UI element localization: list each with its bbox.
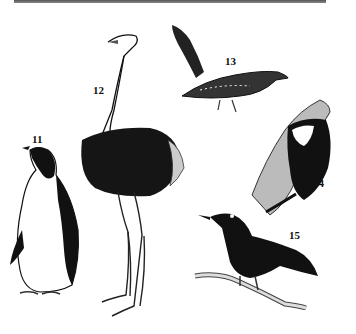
label-woodpecker: 14 [313, 177, 324, 189]
label-cuckoo: 13 [225, 55, 236, 67]
cuckoo-illustration [172, 25, 288, 112]
label-blackbird: 15 [289, 229, 300, 241]
label-penguin: 11 [32, 133, 42, 145]
ostrich-illustration [81, 35, 184, 316]
woodpecker-illustration [252, 100, 331, 215]
bird-illustrations [0, 0, 356, 334]
penguin-illustration [10, 146, 78, 294]
blackbird-illustration [195, 213, 318, 308]
label-ostrich: 12 [93, 84, 104, 96]
